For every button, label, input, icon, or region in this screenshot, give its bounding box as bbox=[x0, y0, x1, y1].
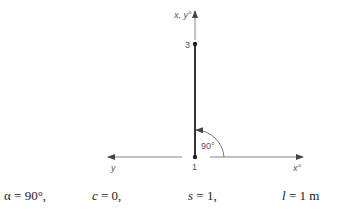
parameter-formula: α = 90°, c = 0, s = 1, l = 1 m bbox=[0, 188, 342, 208]
alpha-value: = 90°, bbox=[11, 188, 46, 203]
s-term: s = 1, bbox=[188, 188, 217, 204]
node-1-label: 1 bbox=[192, 162, 197, 172]
y-axis-label: y bbox=[110, 163, 116, 173]
l-term: l = 1 m bbox=[282, 188, 319, 204]
node-3-dot bbox=[193, 42, 197, 46]
s-value: = 1, bbox=[193, 188, 217, 203]
l-value: = 1 m bbox=[286, 188, 320, 203]
x-local-axis-label: x° bbox=[292, 163, 302, 173]
angle-label: 90° bbox=[201, 141, 215, 151]
c-term: c = 0, bbox=[92, 188, 121, 204]
alpha-symbol: α bbox=[4, 188, 11, 203]
alpha-term: α = 90°, bbox=[4, 188, 46, 204]
c-value: = 0, bbox=[98, 188, 122, 203]
vertical-axis-label: x, y° bbox=[173, 10, 192, 20]
node-1-dot bbox=[193, 155, 197, 159]
element-diagram: x, y° 3 90° 1 y x° bbox=[0, 0, 342, 214]
node-3-label: 3 bbox=[185, 40, 190, 50]
